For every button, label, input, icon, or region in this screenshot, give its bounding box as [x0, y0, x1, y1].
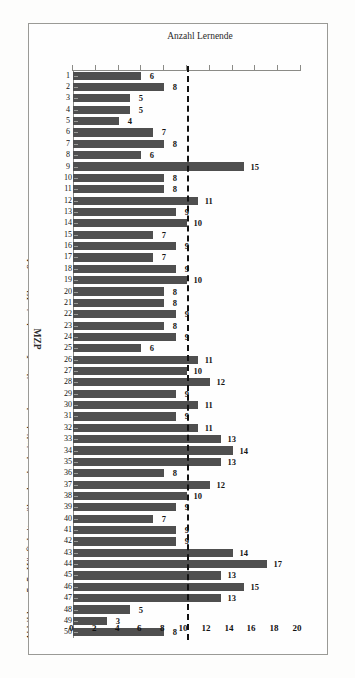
- x-axis-tick-label: 20: [64, 288, 72, 296]
- x-axis-tick-label: 3: [66, 94, 70, 102]
- bar-value-label: 14: [239, 446, 248, 455]
- bar: 11: [73, 401, 198, 409]
- bar: 9: [73, 310, 176, 318]
- bar: 7: [73, 253, 153, 261]
- x-axis-tick-mark: [74, 530, 78, 531]
- x-axis-tick-label: 19: [64, 276, 72, 284]
- x-axis-tick-label: 48: [64, 606, 72, 614]
- x-axis-tick-label: 7: [66, 140, 70, 148]
- y-axis-tick-mark: [117, 65, 118, 71]
- x-axis-tick-label: 9: [66, 163, 70, 171]
- bar: 15: [73, 583, 244, 591]
- x-axis-tick-mark: [74, 212, 78, 213]
- x-axis-tick-label: 26: [64, 356, 72, 364]
- x-axis-tick: 17: [55, 252, 73, 263]
- bar-value-label: 6: [150, 151, 154, 160]
- x-axis-tick: 20: [55, 286, 73, 297]
- x-axis-tick-label: 36: [64, 469, 72, 477]
- x-axis-tick: 24: [55, 331, 73, 342]
- x-axis-tick-mark: [74, 314, 78, 315]
- bar: 5: [73, 605, 130, 613]
- x-axis-tick-mark: [74, 326, 78, 327]
- bar-value-label: 8: [172, 321, 176, 330]
- x-axis-tick-label: 50: [64, 628, 72, 636]
- bar: 6: [73, 72, 141, 80]
- bar: 13: [73, 594, 221, 602]
- x-axis-tick-label: 10: [64, 174, 72, 182]
- bar-value-label: 8: [172, 287, 176, 296]
- x-axis-tick-mark: [74, 394, 78, 395]
- x-axis-tick-label: 11: [64, 185, 72, 193]
- y-axis-tick-mark: [254, 65, 255, 71]
- x-axis-tick-mark: [74, 144, 78, 145]
- y-axis-tick-label: 4: [114, 624, 119, 633]
- bar-value-label: 5: [138, 94, 142, 103]
- x-axis-tick: 15: [55, 229, 73, 240]
- x-axis-tick: 4: [55, 104, 73, 115]
- x-axis-tick: 39: [55, 502, 73, 513]
- x-axis-tick-mark: [74, 575, 78, 576]
- bar: 10: [73, 492, 187, 500]
- x-axis-tick-mark: [74, 189, 78, 190]
- x-axis-tick-mark: [74, 246, 78, 247]
- x-axis-tick-mark: [74, 360, 78, 361]
- x-axis-tick: 23: [55, 320, 73, 331]
- bar-value-label: 15: [250, 583, 259, 592]
- bar-value-label: 15: [250, 162, 259, 171]
- x-axis-tick: 26: [55, 354, 73, 365]
- x-axis-tick-label: 16: [64, 242, 72, 250]
- bar: 10: [73, 219, 187, 227]
- y-axis-title-label: Anzahl Lernende: [167, 31, 233, 41]
- x-axis-tick-label: 45: [64, 571, 72, 579]
- bar: 9: [73, 412, 176, 420]
- x-axis-tick-mark: [74, 280, 78, 281]
- bar-value-label: 17: [273, 560, 282, 569]
- x-axis-tick-mark: [74, 235, 78, 236]
- bar: 4: [73, 117, 119, 125]
- x-axis-tick: 35: [55, 456, 73, 467]
- x-axis-tick: 10: [55, 172, 73, 183]
- x-axis-tick-label: 47: [64, 594, 72, 602]
- x-axis-tick: 25: [55, 343, 73, 354]
- y-axis-tick-label: 20: [292, 624, 301, 633]
- bar: 9: [73, 208, 176, 216]
- y-axis-tick-label: 2: [91, 624, 96, 633]
- x-axis-tick-mark: [74, 223, 78, 224]
- x-axis-tick-label: 43: [64, 549, 72, 557]
- x-axis-tick-mark: [74, 178, 78, 179]
- x-axis-tick-mark: [74, 621, 78, 622]
- bar-value-label: 6: [150, 71, 154, 80]
- x-axis-tick-mark: [74, 303, 78, 304]
- x-axis-tick: 47: [55, 593, 73, 604]
- bar-value-label: 6: [150, 344, 154, 353]
- x-axis-tick-mark: [74, 451, 78, 452]
- x-axis-tick: 12: [55, 195, 73, 206]
- x-axis-tick: 18: [55, 263, 73, 274]
- bar-value-label: 7: [161, 230, 165, 239]
- x-axis-tick-label: 35: [64, 458, 72, 466]
- x-axis-tick: 28: [55, 377, 73, 388]
- bar: 9: [73, 526, 176, 534]
- bar: 14: [73, 446, 233, 454]
- x-axis-tick: 46: [55, 581, 73, 592]
- bar-value-label: 13: [227, 435, 236, 444]
- x-axis-tick: 22: [55, 309, 73, 320]
- x-axis-tick: 40: [55, 513, 73, 524]
- x-axis-tick-label: 37: [64, 481, 72, 489]
- x-axis-tick-mark: [74, 507, 78, 508]
- x-axis-tick-mark: [74, 76, 78, 77]
- y-axis-tick-mark: [140, 65, 141, 71]
- x-axis-tick: 2: [55, 81, 73, 92]
- x-axis-tick-mark: [74, 132, 78, 133]
- x-axis-tick: 19: [55, 274, 73, 285]
- x-axis-tick-mark: [74, 155, 78, 156]
- x-axis-tick-mark: [74, 485, 78, 486]
- x-axis-tick-label: 28: [64, 378, 72, 386]
- x-axis-tick-label: 40: [64, 515, 72, 523]
- bar-value-label: 13: [227, 458, 236, 467]
- bar: 7: [73, 128, 153, 136]
- y-axis-tick-mark: [94, 65, 95, 71]
- x-axis-tick-mark: [74, 564, 78, 565]
- bar: 8: [73, 287, 164, 295]
- bar: 6: [73, 151, 141, 159]
